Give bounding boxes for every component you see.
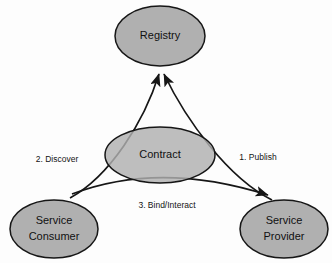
service-consumer-label-line2: Consumer (29, 230, 80, 242)
node-service-consumer[interactable]: Service Consumer (10, 200, 98, 258)
service-provider-label-line2: Provider (264, 230, 305, 242)
node-contract[interactable]: Contract (105, 127, 215, 183)
diagram-canvas: Contract Registry Service Consumer Servi… (0, 0, 332, 263)
node-registry[interactable]: Registry (115, 6, 205, 66)
soa-diagram: Contract Registry Service Consumer Servi… (0, 0, 332, 263)
contract-label: Contract (139, 148, 181, 160)
registry-label: Registry (140, 29, 181, 41)
edge-label-bind-interact: 3. Bind/Interact (138, 200, 196, 210)
service-provider-label-line1: Service (266, 214, 303, 226)
service-consumer-label-line1: Service (36, 214, 73, 226)
edge-label-discover: 2. Discover (36, 154, 79, 164)
edge-label-publish: 1. Publish (239, 152, 277, 162)
node-service-provider[interactable]: Service Provider (240, 200, 328, 258)
